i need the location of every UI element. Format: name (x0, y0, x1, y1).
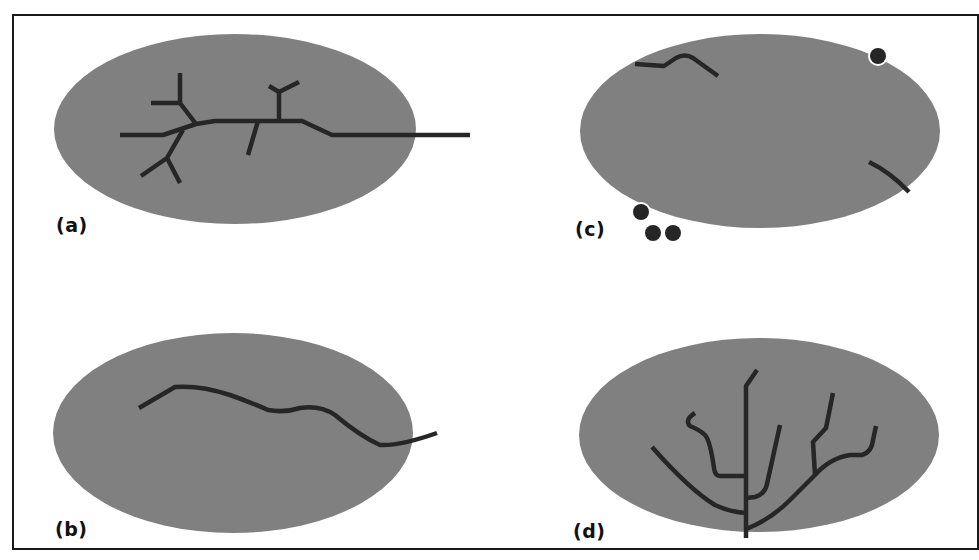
cell-a (54, 34, 416, 224)
panel-label-a: (a) (56, 214, 88, 236)
panel-b (53, 333, 437, 533)
dot (665, 225, 681, 241)
cell-d (579, 338, 939, 532)
cell-c (580, 34, 940, 228)
dot (645, 225, 661, 241)
panel-d (579, 338, 939, 538)
dot (870, 48, 886, 64)
panel-a (54, 34, 470, 224)
panel-label-d: (d) (573, 520, 605, 542)
panel-label-c: (c) (575, 218, 605, 240)
panel-label-b: (b) (55, 518, 87, 540)
panel-c (580, 34, 940, 241)
diagram-canvas (0, 0, 979, 560)
dot (633, 204, 649, 220)
